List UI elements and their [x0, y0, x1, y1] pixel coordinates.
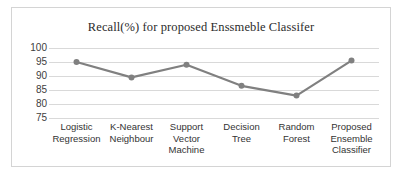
- x-category-label: Proposed Ensemble Classifier: [324, 121, 379, 156]
- y-tick-label: 80: [36, 99, 47, 109]
- x-category-label: Decision Tree: [214, 121, 269, 144]
- y-axis: 1009590858075: [14, 48, 47, 118]
- series-line: [77, 61, 352, 96]
- gridline-75: [49, 118, 379, 119]
- data-point-marker: [294, 93, 300, 99]
- data-point-marker: [74, 59, 80, 65]
- x-axis: Logistic RegressionK-Nearest NeighbourSu…: [49, 121, 379, 156]
- y-tick-label: 95: [36, 57, 47, 67]
- chart-frame: Recall(%) for proposed Enssmeble Classif…: [11, 7, 391, 167]
- data-point-marker: [129, 74, 135, 80]
- data-point-marker: [184, 62, 190, 68]
- chart-title: Recall(%) for proposed Enssmeble Classif…: [12, 20, 390, 35]
- recall-line-series: [49, 48, 379, 118]
- x-category-label: Logistic Regression: [49, 121, 104, 144]
- data-point-marker: [239, 83, 245, 89]
- plot-area: [49, 48, 379, 118]
- data-point-marker: [349, 58, 355, 64]
- y-tick-label: 85: [36, 85, 47, 95]
- x-category-label: Random Forest: [269, 121, 324, 144]
- y-tick-label: 100: [30, 43, 47, 53]
- x-category-label: Support Vector Machine: [159, 121, 214, 156]
- x-category-label: K-Nearest Neighbour: [104, 121, 159, 144]
- y-tick-label: 90: [36, 71, 47, 81]
- y-tick-label: 75: [36, 113, 47, 123]
